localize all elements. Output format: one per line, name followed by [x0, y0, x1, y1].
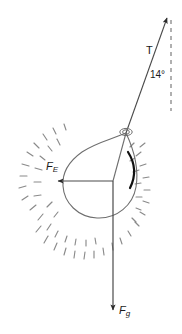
- diagram-canvas: [0, 0, 182, 334]
- electric-force-symbol: F: [46, 160, 53, 172]
- tension-label: T: [146, 45, 153, 56]
- gravity-force-label: Fg: [119, 305, 130, 316]
- gravity-force-symbol: F: [119, 304, 126, 316]
- rotation-arc-icon: [128, 152, 134, 188]
- gravity-force-subscript: g: [126, 309, 130, 318]
- electric-force-label: FE: [46, 161, 58, 172]
- balloon-neck-line: [113, 133, 126, 181]
- balloon-body: [63, 133, 137, 218]
- electric-force-subscript: E: [53, 165, 58, 174]
- physics-diagram: T 14° FE Fg: [0, 0, 182, 334]
- angle-label: 14°: [150, 70, 165, 80]
